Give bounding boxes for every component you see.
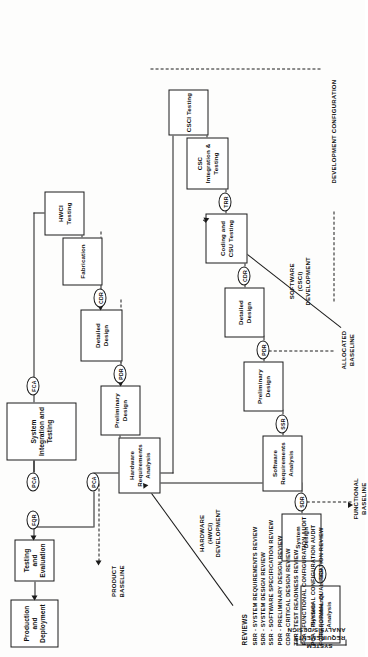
arrow-to-testing: [30, 535, 36, 540]
dashed-product-baseline-feed: [98, 483, 99, 561]
box-software-requirements-analysis: Software Requirements Analysis: [262, 435, 302, 491]
legend-item-trr: TRR - TEST READINESS REVIEW: [291, 516, 299, 645]
line-pca2-up-to-fqr: [33, 526, 93, 527]
dashed-allocated-down: [263, 350, 333, 351]
review-pdr-hw: PDR: [113, 364, 126, 383]
dashed-development-configuration-boundary: [150, 68, 320, 69]
review-pdr-sw: PDR: [256, 340, 269, 359]
legend-item-cdr: CDR - CRITICAL DESIGN REVIEW: [283, 516, 291, 645]
review-sdr: SDR: [294, 492, 307, 511]
box-hw-preliminary-design: Preliminary Design: [100, 385, 140, 435]
review-fqr: FQR: [26, 510, 39, 529]
review-fca: FCA: [26, 376, 39, 395]
box-csc-integration-testing: CSC Integration & Testing: [186, 137, 228, 189]
label-functional-baseline: FUNCTIONAL BASELINE: [352, 478, 368, 520]
box-system-integration-testing: System Integration and Testing: [6, 402, 76, 460]
arrow-product-baseline: [95, 560, 101, 565]
box-testing-and-evaluation: Testing and Evaluation: [14, 539, 54, 581]
review-pca-1: PCA: [26, 472, 39, 491]
legend-item-pca: PCA - PHYSICAL CONFIGURATION AUDIT: [308, 516, 316, 645]
legend-title: REVIEWS: [240, 516, 247, 645]
box-hwci-testing: HWCI Testing: [44, 191, 84, 235]
arrow-to-production: [31, 595, 37, 600]
line-pca2-to-csci: [172, 135, 173, 473]
line-hwci-to-fca: [33, 212, 34, 386]
legend-item-srr: SRR - SYSTEM REQUIREMENTS REVIEW: [250, 516, 258, 645]
label-allocated-baseline: ALLOCATED BASELINE: [340, 330, 356, 369]
legend-item-fqr: FQR - FORMAL QUALIFICATION REVIEW: [316, 516, 324, 645]
box-coding-csu-testing: Coding and CSU Testing: [205, 213, 247, 263]
review-cdr-hw: CDR: [93, 288, 106, 307]
label-software-development: SOFTWARE (CSCI) DEVELOPMENT: [288, 257, 311, 305]
line-pca2-left: [93, 491, 94, 527]
box-sw-detailed-design: Detailed Design: [224, 287, 264, 337]
dashed-sdr-down: [301, 501, 351, 502]
arrow-functional-baseline: [348, 502, 353, 508]
box-sw-preliminary-design: Preliminary Design: [243, 361, 283, 411]
dashed-trr-to-coding: [333, 211, 334, 301]
box-hw-detailed-design: Detailed Design: [80, 309, 122, 361]
label-hardware-development: HARDWARE (HWCI) DEVELOPMENT: [198, 509, 221, 557]
box-hardware-requirements-analysis: Hardware Requirements Analysis: [118, 437, 160, 493]
review-pca-2: PCA: [86, 472, 99, 491]
box-production-and-deployment: Production and Deployment: [10, 599, 58, 647]
review-ssr: SSR: [275, 414, 288, 433]
legend-item-ssr: SSR - SOFTWARE SPECIFICATION REVIEW: [266, 516, 274, 645]
label-product-baseline-right: PRODUCT BASELINE: [110, 565, 126, 597]
box-csci-testing: CSCI Testing: [168, 89, 208, 135]
legend-reviews: REVIEWS SRR - SYSTEM REQUIREMENTS REVIEW…: [240, 516, 324, 645]
review-cdr-sw: CDR: [237, 266, 250, 285]
legend-item-pdr: PDR - PRELIMINARY DESIGN REVIEW: [275, 516, 283, 645]
review-trr: TRR: [218, 192, 231, 211]
legend-item-fca: FCA - FUNCTIONAL CONFIGURATION AUDIT: [299, 516, 307, 645]
legend-item-sdr: SDR - SYSTEM DESIGN REVIEW: [258, 516, 266, 645]
label-development-configuration: DEVELOPMENT CONFIGURATION: [330, 79, 338, 183]
box-fabrication: Fabrication: [62, 237, 102, 285]
line-hwci-up: [33, 212, 45, 213]
